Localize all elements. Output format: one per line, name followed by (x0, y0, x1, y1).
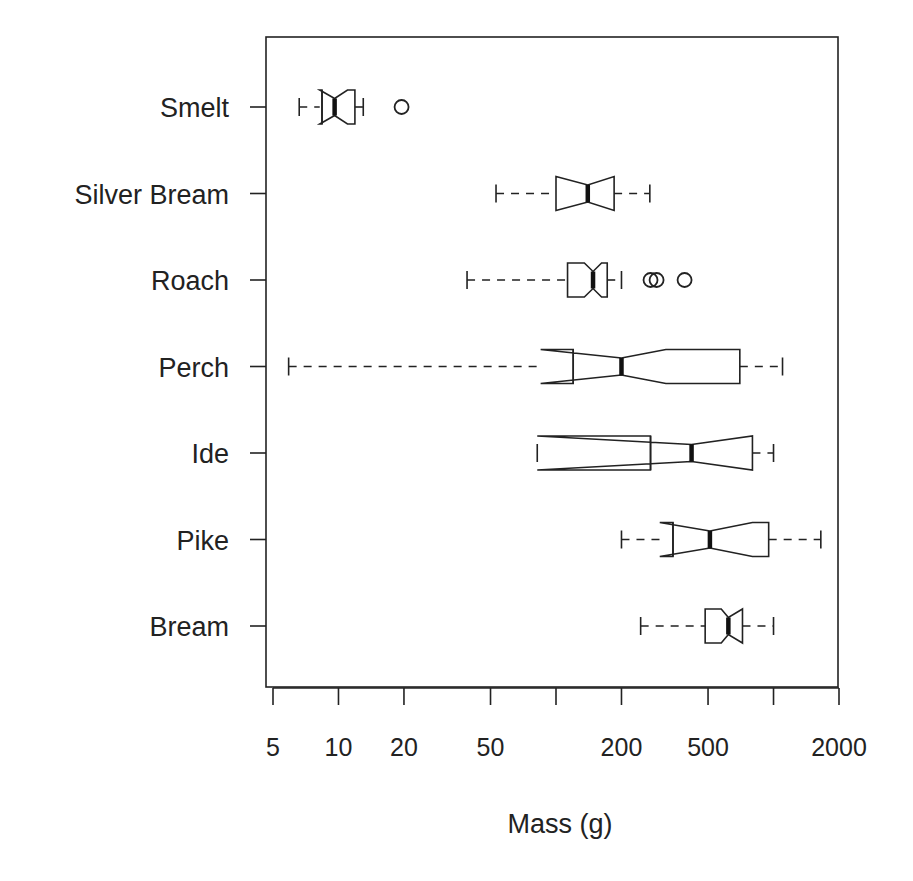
category-label: Perch (158, 353, 229, 383)
x-tick-label: 5 (266, 733, 280, 761)
box-bream (641, 609, 774, 643)
category-label: Ide (191, 439, 229, 469)
outlier-point (395, 100, 409, 114)
category-label: Bream (149, 612, 229, 642)
plot-frame (266, 37, 838, 687)
box-roach (467, 263, 692, 297)
x-tick-label: 20 (390, 733, 418, 761)
x-axis-label: Mass (g) (507, 809, 612, 839)
boxes (289, 90, 821, 643)
category-label: Silver Bream (74, 180, 229, 210)
box-ide (537, 436, 773, 470)
box-silver-bream (496, 177, 650, 211)
category-label: Roach (151, 266, 229, 296)
x-tick-label: 2000 (811, 733, 867, 761)
boxplot-chart: SmeltSilver BreamRoachPerchIdePikeBream … (0, 0, 913, 881)
x-tick-label: 50 (477, 733, 505, 761)
y-axis: SmeltSilver BreamRoachPerchIdePikeBream (74, 93, 266, 642)
x-tick-label: 10 (325, 733, 353, 761)
x-tick-label: 200 (601, 733, 643, 761)
box-smelt (299, 90, 408, 124)
x-tick-label: 500 (687, 733, 729, 761)
category-label: Smelt (160, 93, 230, 123)
box-pike (621, 523, 820, 557)
outlier-point (678, 273, 692, 287)
category-label: Pike (176, 526, 229, 556)
box-perch (289, 350, 783, 384)
x-axis: 51020502005002000 (266, 688, 867, 761)
